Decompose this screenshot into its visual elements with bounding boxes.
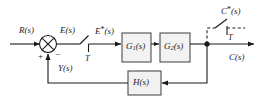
label-minus-sign: − <box>55 50 60 59</box>
label-feedback-ys: Y(s) <box>58 64 73 73</box>
label-error-sampler-period: T <box>85 54 90 63</box>
label-output-cs: C(s) <box>229 53 245 62</box>
label-block-h: H(s) <box>133 78 149 87</box>
label-error-es: E(s) <box>60 26 75 35</box>
sampled-output-arg: (s) <box>231 6 241 16</box>
label-sampled-error: E*(s) <box>95 26 114 36</box>
label-output-sampler-period: T <box>228 33 233 42</box>
label-input-rs: R(s) <box>19 26 34 35</box>
g1-arg: (s) <box>136 41 146 51</box>
error-sampler-blade <box>80 36 89 45</box>
label-sampled-output: C*(s) <box>221 6 241 16</box>
label-plus-sign: + <box>38 52 43 61</box>
g2-arg: (s) <box>174 41 184 51</box>
h-arg: (s) <box>140 77 150 87</box>
label-block-g2: G2(s) <box>164 42 183 52</box>
label-block-g1: G1(s) <box>126 42 145 52</box>
sampled-error-arg: (s) <box>105 26 115 36</box>
output-sampler-blade <box>215 19 227 28</box>
output-sampler-branch-dashed <box>207 28 215 44</box>
block-diagram-figure: R(s) + − E(s) Y(s) T E*(s) G1(s) G2(s) H… <box>0 0 265 102</box>
